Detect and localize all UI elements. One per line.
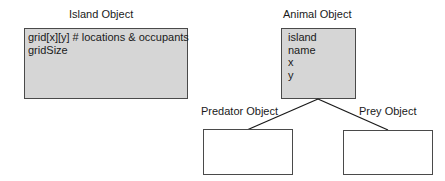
animal-object-box: island name x y [281,28,356,99]
island-object-box: grid[x][y] # locations & occupants gridS… [24,28,188,99]
predator-object-title: Predator Object [201,105,278,117]
animal-field-island: island [288,31,317,44]
animal-field-x: x [288,56,317,69]
island-object-fields: grid[x][y] # locations & occupants gridS… [28,31,189,56]
animal-object-fields: island name x y [288,31,317,81]
animal-field-y: y [288,69,317,82]
animal-object-title: Animal Object [283,8,351,20]
animal-field-name: name [288,44,317,57]
prey-object-box [343,130,433,175]
prey-object-title: Prey Object [359,105,416,117]
island-field-gridsize: gridSize [28,44,189,57]
island-object-title: Island Object [69,8,133,20]
predator-object-box [203,129,293,175]
island-field-grid: grid[x][y] # locations & occupants [28,31,189,44]
